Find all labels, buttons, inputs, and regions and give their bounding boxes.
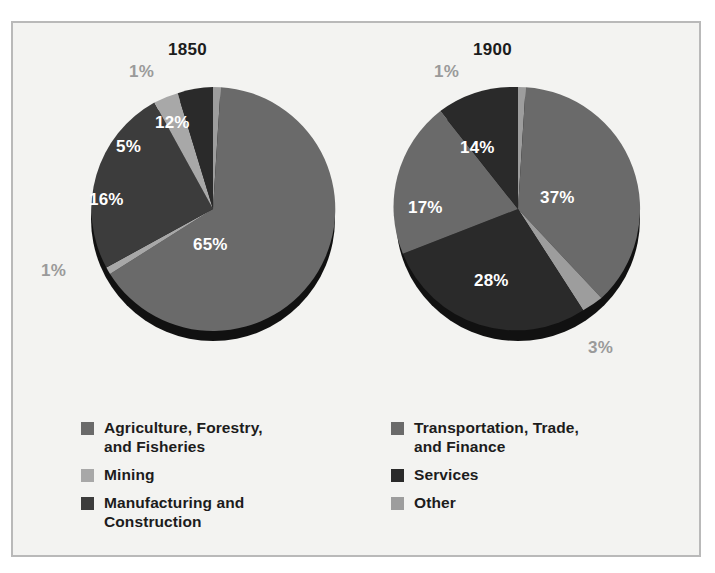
pie-label-1850-manufacturing: 16% <box>89 190 124 210</box>
legend-swatch-icon-mining <box>81 469 94 482</box>
pie-label-1850-agriculture: 65% <box>193 235 228 255</box>
legend-right-column: Transportation, Trade,and Finance Servic… <box>391 419 691 522</box>
pie-label-1900-transportation-37: 37% <box>540 188 575 208</box>
legend-label-agriculture: Agriculture, Forestry,and Fisheries <box>104 419 263 457</box>
chart-title-1900: 1900 <box>473 40 512 60</box>
legend-label-services: Services <box>414 466 479 485</box>
chart-title-1850: 1850 <box>168 40 207 60</box>
pie-label-1850-services: 12% <box>155 113 190 133</box>
chart-frame: 1850 1% 65% 1% 16% 5% 12% <box>11 21 701 557</box>
pie-label-1850-mining-5: 5% <box>116 137 141 157</box>
legend-swatch-icon-services <box>391 469 404 482</box>
pie-svg-1900 <box>388 83 648 353</box>
legend-label-transportation: Transportation, Trade,and Finance <box>414 419 579 457</box>
pie-label-1900-other-1: 1% <box>434 62 459 82</box>
legend-item-manufacturing[interactable]: Manufacturing andConstruction <box>81 494 381 532</box>
legend-swatch-icon-transportation <box>391 422 404 435</box>
pie-label-1900-other-3: 3% <box>588 338 613 358</box>
pie-label-1850-mining-1: 1% <box>41 261 66 281</box>
pie-slices-1850 <box>91 87 335 331</box>
pie-svg-1850 <box>83 83 343 353</box>
pie-label-1850-other: 1% <box>129 62 154 82</box>
legend-swatch-icon-manufacturing <box>81 497 94 510</box>
pie-label-1900-services-28: 28% <box>474 271 509 291</box>
legend-item-mining[interactable]: Mining <box>81 466 381 485</box>
pie-chart-1850: 1% 65% 1% 16% 5% 12% <box>83 83 343 353</box>
legend-item-agriculture[interactable]: Agriculture, Forestry,and Fisheries <box>81 419 381 457</box>
legend-label-mining: Mining <box>104 466 155 485</box>
legend-swatch-icon-other <box>391 497 404 510</box>
pie-chart-1900: 1% 37% 3% 28% 17% 14% <box>388 83 648 353</box>
legend-item-other[interactable]: Other <box>391 494 691 513</box>
legend-left-column: Agriculture, Forestry,and Fisheries Mini… <box>81 419 381 541</box>
pie-label-1900-transportation-17: 17% <box>408 198 443 218</box>
pie-label-1900-services-14: 14% <box>460 138 495 158</box>
legend-label-other: Other <box>414 494 456 513</box>
legend-label-manufacturing: Manufacturing andConstruction <box>104 494 244 532</box>
legend-swatch-icon-agriculture <box>81 422 94 435</box>
legend-item-services[interactable]: Services <box>391 466 691 485</box>
legend-item-transportation[interactable]: Transportation, Trade,and Finance <box>391 419 691 457</box>
